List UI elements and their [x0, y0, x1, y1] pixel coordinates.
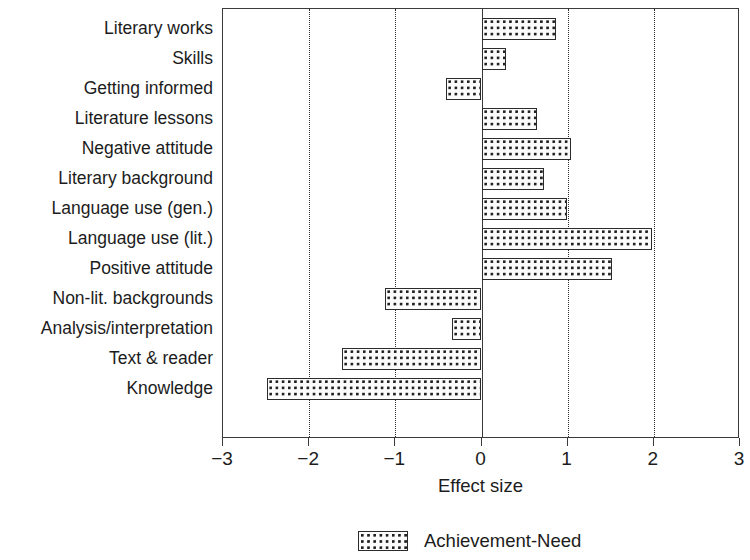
- gridline-1: [568, 9, 569, 437]
- category-label: Negative attitude: [0, 138, 213, 158]
- plot-area: [222, 8, 739, 438]
- legend-label-achievement-need: Achievement-Need: [424, 529, 581, 553]
- x-tick-label: −3: [211, 447, 233, 471]
- category-label: Literature lessons: [0, 108, 213, 128]
- category-label: Analysis/interpretation: [0, 318, 213, 338]
- bar: [482, 108, 537, 130]
- category-label: Getting informed: [0, 78, 213, 98]
- bar: [482, 48, 506, 70]
- gridline--1: [395, 9, 396, 437]
- x-tick: [222, 438, 223, 446]
- bar: [482, 228, 653, 250]
- bar: [482, 168, 544, 190]
- x-tick-label: 1: [561, 447, 572, 471]
- category-label: Language use (lit.): [0, 228, 213, 248]
- legend-swatch-achievement-need: [358, 531, 408, 551]
- x-tick: [394, 438, 395, 446]
- x-tick-label: 0: [475, 447, 486, 471]
- gridline-2: [654, 9, 655, 437]
- bar: [385, 288, 482, 310]
- x-tick: [308, 438, 309, 446]
- category-label: Literary works: [0, 18, 213, 38]
- category-label: Positive attitude: [0, 258, 213, 278]
- category-label: Knowledge: [0, 378, 213, 398]
- x-axis-title: Effect size: [222, 474, 739, 498]
- category-label: Literary background: [0, 168, 213, 188]
- x-tick-label: 3: [734, 447, 745, 471]
- chart-legend: Achievement-Need: [358, 528, 581, 554]
- bar: [482, 198, 567, 220]
- effect-size-bar-chart: Literary worksSkillsGetting informedLite…: [0, 0, 750, 560]
- bar: [267, 378, 482, 400]
- x-tick: [653, 438, 654, 446]
- category-axis-labels: Literary worksSkillsGetting informedLite…: [0, 8, 213, 438]
- category-label: Non-lit. backgrounds: [0, 288, 213, 308]
- x-tick-label: −1: [383, 447, 405, 471]
- x-tick-label: −2: [297, 447, 319, 471]
- x-tick: [481, 438, 482, 446]
- x-axis-tick-labels: −3−2−10123: [222, 447, 739, 473]
- zero-axis-line: [482, 9, 483, 437]
- x-tick: [739, 438, 740, 446]
- bar: [452, 318, 481, 340]
- bar: [482, 138, 572, 160]
- category-label: Text & reader: [0, 348, 213, 368]
- bar: [446, 78, 481, 100]
- x-tick: [567, 438, 568, 446]
- bar: [482, 18, 557, 40]
- category-label: Language use (gen.): [0, 198, 213, 218]
- gridline--2: [309, 9, 310, 437]
- x-tick-label: 2: [648, 447, 659, 471]
- bar: [482, 258, 613, 280]
- bar: [342, 348, 482, 370]
- category-label: Skills: [0, 48, 213, 68]
